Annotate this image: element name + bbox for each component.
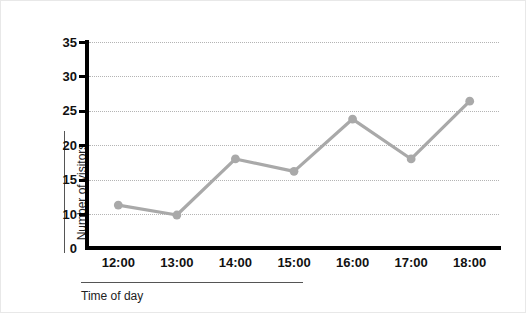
- y-axis-tick-labels: 0101520253035: [45, 1, 77, 313]
- plot-area: 12:00: 11.313:00: 9.714:00: 1815:00: 16.…: [89, 42, 499, 248]
- x-axis-tick-label: 18:00: [435, 256, 505, 269]
- y-axis-tick-label: 20: [49, 139, 77, 152]
- x-axis-tick-labels: 12:0013:0014:0015:0016:0017:0018:00: [89, 256, 499, 274]
- series-polyline: [118, 101, 469, 215]
- y-axis-tick-label: 0: [49, 242, 77, 255]
- y-axis-tick-mark: [79, 75, 86, 78]
- y-axis-tick-label: 30: [49, 70, 77, 83]
- y-axis-tick-mark: [79, 179, 86, 182]
- data-point-marker: 12:00: 11.3: [114, 201, 123, 210]
- x-axis-title-rule: [81, 282, 303, 283]
- data-point-marker: 14:00: 18: [231, 155, 240, 164]
- y-axis-tick-label: 25: [49, 104, 77, 117]
- y-axis-tick-mark: [79, 41, 86, 44]
- data-point-marker: 16:00: 23.8: [348, 115, 357, 124]
- y-axis-tick-label: 35: [49, 36, 77, 49]
- y-axis-tick-mark: [79, 110, 86, 113]
- x-axis-title: Time of day: [81, 289, 143, 303]
- y-axis-tick-label: 15: [49, 173, 77, 186]
- data-point-marker: 13:00: 9.7: [172, 211, 181, 220]
- data-point-marker: 17:00: 18: [407, 155, 416, 164]
- data-point-marker: 18:00: 26.4: [465, 97, 474, 106]
- chart-figure: Number of visitors 0101520253035 12:00: …: [0, 0, 526, 313]
- series-line: 12:00: 11.313:00: 9.714:00: 1815:00: 16.…: [89, 42, 499, 248]
- y-axis-tick-mark: [79, 144, 86, 147]
- y-axis-tick-mark: [79, 213, 86, 216]
- data-point-marker: 15:00: 16.2: [290, 167, 299, 176]
- y-axis-tick-label: 10: [49, 208, 77, 221]
